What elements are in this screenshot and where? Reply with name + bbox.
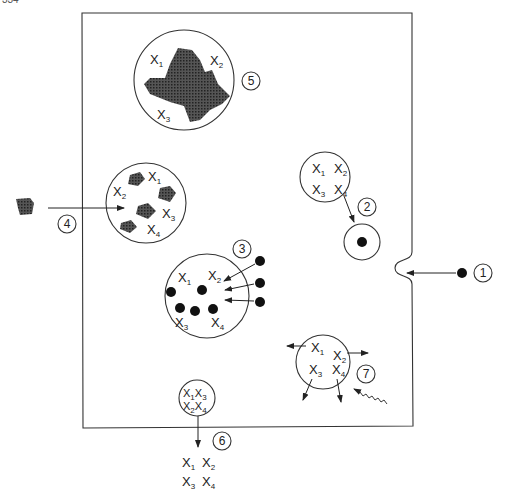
svg-text:X1: X1 [148,169,162,186]
vesicle-5: X1 X2 X3 5 [134,30,260,130]
label-5: 5 [248,74,255,88]
svg-text:X2: X2 [113,184,127,201]
svg-text:X3: X3 [182,474,196,491]
svg-text:X3: X3 [157,107,171,124]
svg-text:X3: X3 [312,182,326,199]
svg-text:X1: X1 [178,270,192,287]
svg-text:3: 3 [239,242,246,256]
svg-text:X2: X2 [208,268,222,285]
vesicle-7: X1 X2 X3 X4 7 [287,335,387,404]
vesicle-3: X1 X2 X3 X4 3 [165,240,265,338]
svg-text:X1: X1 [311,340,325,357]
particle-entry-1: 1 [407,264,492,282]
svg-text:7: 7 [363,367,370,381]
incoming-material-icon [16,198,34,215]
svg-text:X4: X4 [211,315,225,332]
svg-text:X2: X2 [202,455,216,472]
svg-text:X1: X1 [150,52,164,69]
svg-text:X3: X3 [162,206,176,223]
svg-text:X4: X4 [334,182,348,199]
svg-text:X2: X2 [210,53,224,70]
cell-diagram: X1 X2 X3 5 4 X1 X2 X3 X4 X1 X2 X3 X4 2 [0,0,509,495]
svg-text:X4: X4 [147,222,161,239]
svg-text:X1: X1 [312,161,326,178]
vesicle-2: X1 X2 X3 X4 2 [300,152,380,260]
svg-text:X4: X4 [202,474,216,491]
svg-text:4: 4 [64,217,71,231]
svg-text:X1: X1 [182,455,196,472]
svg-text:2: 2 [364,200,371,214]
svg-text:X3: X3 [309,362,323,379]
vesicle-6: X1X3 X2X4 6 X1 X2 X3 X4 [179,380,231,491]
svg-text:6: 6 [219,434,226,448]
vesicle-4: 4 X1 X2 X3 X4 [16,163,186,243]
svg-text:1: 1 [480,266,487,280]
svg-text:X3: X3 [175,315,189,332]
